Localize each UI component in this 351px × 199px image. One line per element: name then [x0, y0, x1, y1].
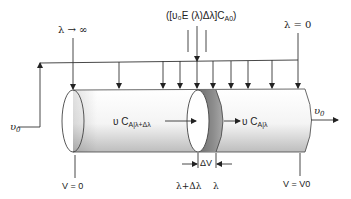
- inlet-flow-label: υ0: [10, 121, 21, 134]
- lambda-infinity-label: λ → ∞: [58, 24, 87, 35]
- lambda-plus-delta-label: λ+Δλ: [176, 181, 202, 191]
- lambda-zero-label: λ = 0: [284, 19, 311, 30]
- v-end-label: V = V0: [283, 179, 310, 189]
- lambda-label: λ: [213, 181, 219, 191]
- delta-v-label: ΔV: [200, 158, 212, 168]
- outlet-flow-label: υ0: [314, 105, 325, 118]
- side-feed-label: ([υ₀E (λ)Δλ]CA0): [166, 10, 236, 22]
- max-mixedness-diagram: λ → ∞ ([υ₀E (λ)Δλ]CA0) λ = 0 υ0 υ0 υ CA|…: [0, 0, 351, 199]
- v-zero-label: V = 0: [62, 181, 83, 191]
